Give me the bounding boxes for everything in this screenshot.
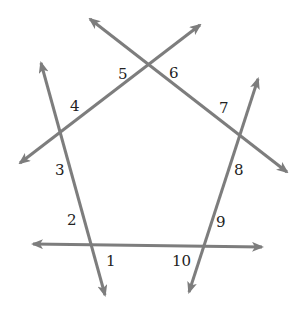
- line-left-top-arrow-line: [20, 25, 200, 163]
- angle-label-8: 8: [234, 161, 244, 179]
- angle-label-4: 4: [70, 97, 80, 115]
- angle-label-1: 1: [106, 252, 116, 270]
- angle-label-10: 10: [172, 252, 191, 270]
- angle-label-6: 6: [169, 64, 179, 82]
- angle-label-7: 7: [219, 99, 229, 117]
- angle-label-3: 3: [55, 161, 65, 179]
- line-bottom-arrow-line: [33, 244, 262, 247]
- angle-labels: 12345678910: [55, 64, 244, 270]
- angle-label-9: 9: [216, 213, 226, 231]
- pentagon-diagram: 12345678910: [0, 0, 300, 326]
- extended-sides: [20, 19, 287, 295]
- angle-label-5: 5: [118, 65, 128, 83]
- angle-label-2: 2: [67, 211, 77, 229]
- diagram-svg: 12345678910: [0, 0, 300, 326]
- line-top-right-arrow-line: [90, 19, 287, 172]
